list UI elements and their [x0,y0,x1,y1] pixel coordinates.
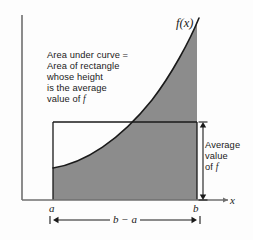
annotation-line-5-math: f [83,94,86,104]
average-value-callout: Average value of f [205,140,240,173]
annotation-line-5-prefix: value of [47,94,83,104]
average-value-diagram: Area under curve = Area of rectangle who… [0,0,253,240]
interval-arrow-head-right [192,217,198,223]
annotation-line-5: value of f [47,94,128,105]
function-curve-label: f(x) [176,16,193,31]
interval-label-minus: − [119,213,132,225]
x-axis-label: x [230,194,235,207]
annotation-line-2: Area of rectangle [47,61,128,72]
annotation-line-4: is the average [47,83,128,94]
average-callout-line-1: Average [205,140,240,151]
annotation-text-block: Area under curve = Area of rectangle who… [47,50,128,105]
x-tick-label-b: b [193,202,199,215]
x-tick-label-a: a [49,202,55,215]
average-value-arrow-head-top [200,122,206,128]
average-callout-line-3: of f [205,162,240,173]
average-callout-line-2: value [205,151,240,162]
diagram-canvas [0,0,253,240]
annotation-line-1: Area under curve = [47,50,128,61]
average-callout-line-3-prefix: of [205,162,216,172]
x-axis-arrow-head [223,197,228,202]
shaded-area-under-curve [53,22,197,200]
average-value-arrow-head-bottom [200,195,206,201]
interval-width-label: b − a [110,213,140,226]
annotation-line-3: whose height [47,72,128,83]
interval-arrow-head-left [53,217,59,223]
average-callout-line-3-math: f [216,162,219,172]
interval-label-right: a [131,213,137,225]
